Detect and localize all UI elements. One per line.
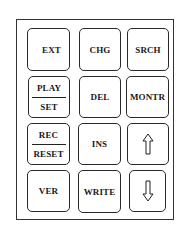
- up-arrow-icon: [142, 133, 154, 155]
- divider: [32, 144, 66, 145]
- write-label: WRITE: [84, 187, 116, 197]
- up-key[interactable]: [127, 123, 169, 165]
- del-label: DEL: [91, 92, 110, 102]
- montr-label: MONTR: [130, 92, 165, 102]
- reset-label: RESET: [33, 149, 63, 159]
- divider: [32, 97, 66, 98]
- ins-label: INS: [92, 139, 107, 149]
- chg-label: CHG: [90, 45, 111, 55]
- ext-key[interactable]: EXT: [27, 28, 70, 71]
- play-set-key[interactable]: PLAY SET: [28, 76, 70, 118]
- del-key[interactable]: DEL: [79, 76, 121, 118]
- montr-key[interactable]: MONTR: [126, 76, 169, 118]
- rec-label: REC: [39, 130, 58, 140]
- play-label: PLAY: [37, 83, 61, 93]
- ext-label: EXT: [42, 45, 61, 55]
- ver-label: VER: [39, 186, 58, 196]
- down-key[interactable]: [129, 170, 166, 212]
- rec-reset-key[interactable]: REC RESET: [27, 123, 70, 165]
- set-label: SET: [40, 102, 57, 112]
- srch-label: SRCH: [135, 45, 160, 55]
- chg-key[interactable]: CHG: [79, 28, 121, 71]
- down-arrow-icon: [142, 180, 154, 202]
- ver-key[interactable]: VER: [27, 170, 70, 212]
- write-key[interactable]: WRITE: [78, 170, 121, 213]
- srch-key[interactable]: SRCH: [127, 28, 169, 71]
- ins-key[interactable]: INS: [78, 123, 121, 165]
